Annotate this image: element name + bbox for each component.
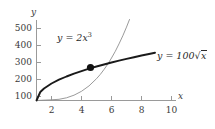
chart-figure: y x 500 400 300 200 100 2 4 6 8 10 y = 2…	[0, 0, 215, 129]
curve-label-cubic: y = 2x3	[57, 33, 92, 43]
y-tick-label-100: 100	[4, 92, 32, 101]
curve-sqrt	[37, 53, 156, 101]
y-tick-label-200: 200	[4, 75, 32, 84]
x-tick-label-6: 6	[101, 106, 122, 115]
x-tick-label-8: 8	[131, 106, 152, 115]
curve-label-cubic-lhs: y = 2	[57, 32, 82, 43]
x-tick-label-4: 4	[71, 106, 92, 115]
y-tick-label-500: 500	[4, 24, 32, 33]
y-tick-label-400: 400	[4, 41, 32, 50]
intersection-point-marker	[87, 64, 94, 71]
curve-label-sqrt: y = 100√x	[157, 50, 207, 61]
y-axis-ticks	[37, 29, 42, 97]
curve-label-sqrt-lhs: y = 100	[157, 50, 195, 61]
x-axis-label: x	[178, 92, 183, 101]
x-tick-label-2: 2	[41, 106, 62, 115]
y-axis-label: y	[31, 8, 36, 17]
curve-label-cubic-exponent: 3	[88, 31, 92, 39]
y-tick-label-300: 300	[4, 58, 32, 67]
x-tick-label-10: 10	[161, 106, 182, 115]
curve-label-sqrt-radicand: x	[201, 50, 207, 61]
